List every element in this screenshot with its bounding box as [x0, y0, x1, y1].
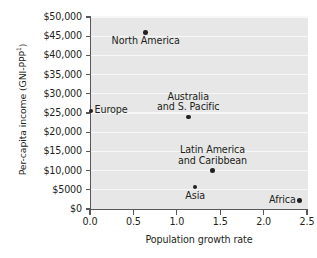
x-axis-tick-label: 0.0	[83, 216, 98, 227]
data-point	[297, 198, 302, 203]
y-axis-tick	[86, 93, 91, 94]
y-axis-tick	[86, 55, 91, 56]
y-axis-tick-labels: $0$5000$10,000$15,000$20,000$25,000$30,0…	[22, 0, 82, 258]
gridline	[91, 170, 308, 171]
y-axis-tick-label: $25,000	[24, 107, 82, 118]
x-axis-title: Population growth rate	[90, 234, 308, 245]
y-axis-tick-label: $40,000	[24, 49, 82, 60]
x-axis-tick	[263, 210, 264, 215]
x-axis-tick	[133, 210, 134, 215]
gridline	[91, 132, 308, 133]
y-axis-tick-label: $5000	[24, 184, 82, 195]
data-point-label: Africa	[269, 195, 296, 206]
x-axis-tick	[176, 210, 177, 215]
data-point	[186, 115, 191, 120]
y-axis-tick	[86, 36, 91, 37]
y-axis-tick	[86, 132, 91, 133]
scatter-chart-figure: Per-capita income (GNI-PPP1) $0$5000$10,…	[0, 0, 317, 258]
data-point-label: North America	[112, 36, 180, 47]
y-axis-tick-label: $20,000	[24, 126, 82, 137]
gridline	[91, 16, 308, 17]
x-axis-tick	[306, 210, 307, 215]
y-axis-tick	[86, 189, 91, 190]
data-point-label: Asia	[185, 191, 205, 202]
plot-area: North AmericaEuropeAustraliaand S. Pacif…	[90, 17, 308, 210]
data-point	[210, 168, 215, 173]
data-point	[143, 30, 148, 35]
y-axis-tick	[86, 170, 91, 171]
y-axis-tick	[86, 151, 91, 152]
y-axis-tick-label: $15,000	[24, 145, 82, 156]
x-axis-tick	[89, 210, 90, 215]
y-axis-tick-label: $50,000	[24, 11, 82, 22]
x-axis-tick-label: 2.5	[300, 216, 315, 227]
x-axis-tick-label: 1.0	[169, 216, 184, 227]
data-point-label: Europe	[95, 105, 128, 116]
y-axis-tick	[86, 74, 91, 75]
y-axis-tick	[86, 16, 91, 17]
y-axis-tick-label: $30,000	[24, 88, 82, 99]
gridline	[91, 74, 308, 75]
data-point-label: Australiaand S. Pacific	[157, 92, 219, 113]
gridline	[91, 55, 308, 56]
x-axis-tick-label: 2.0	[256, 216, 271, 227]
y-axis-tick-label: $35,000	[24, 69, 82, 80]
data-point-label: Latin Americaand Caribbean	[178, 145, 247, 166]
y-axis-tick-label: $10,000	[24, 165, 82, 176]
x-axis-tick	[220, 210, 221, 215]
y-axis-tick-label: $45,000	[24, 30, 82, 41]
x-axis-tick-label: 1.5	[213, 216, 228, 227]
y-axis-tick-label: $0	[24, 203, 82, 214]
x-axis-tick-labels: 0.00.51.01.52.02.5	[90, 216, 308, 230]
x-axis-tick-label: 0.5	[126, 216, 141, 227]
